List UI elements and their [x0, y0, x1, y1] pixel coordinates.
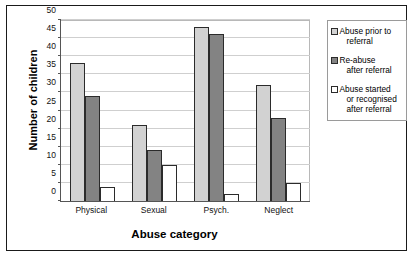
y-tick-label: 30	[47, 77, 56, 87]
bar[interactable]	[194, 27, 209, 201]
legend-entry[interactable]: Abuse startedor recognisedafter referral	[331, 84, 403, 114]
bars-layer	[61, 20, 310, 201]
y-tick-label: 20	[47, 114, 56, 124]
bar[interactable]	[100, 187, 115, 201]
plot-area: 05101520253035404550	[60, 20, 310, 202]
y-tick-label: 50	[47, 5, 56, 15]
bar[interactable]	[147, 150, 162, 201]
y-tick-label: 0	[51, 186, 56, 196]
legend-swatch-icon	[331, 86, 338, 93]
y-tick-label: 40	[47, 41, 56, 51]
x-axis-title: Abuse category	[37, 228, 312, 240]
y-tick-label: 5	[51, 168, 56, 178]
y-tick-label: 25	[47, 96, 56, 106]
x-tick-label: Neglect	[253, 205, 305, 215]
bar[interactable]	[256, 85, 271, 201]
chart-legend: Abuse prior toreferralRe-abuseafter refe…	[327, 20, 407, 121]
x-axis-tick-labels: PhysicalSexualPsych.Neglect	[60, 205, 310, 215]
legend-entry[interactable]: Re-abuseafter referral	[331, 55, 403, 75]
bar-group-psych	[194, 20, 239, 201]
bar-group-neglect	[256, 20, 301, 201]
bar[interactable]	[286, 183, 301, 201]
bar[interactable]	[132, 125, 147, 201]
bar[interactable]	[85, 96, 100, 201]
y-tick-label: 45	[47, 23, 56, 33]
y-tick-label: 10	[47, 150, 56, 160]
legend-label: Re-abuseafter referral	[340, 55, 392, 75]
bar[interactable]	[271, 118, 286, 201]
bar-group-physical	[70, 20, 115, 201]
y-axis-title: Number of children	[27, 30, 39, 170]
legend-swatch-icon	[331, 28, 338, 35]
bar[interactable]	[70, 63, 85, 201]
x-tick-label: Psych.	[190, 205, 242, 215]
legend-entry[interactable]: Abuse prior toreferral	[331, 26, 403, 46]
chart-figure-frame: Number of children 05101520253035404550 …	[6, 5, 407, 251]
y-tick-label: 15	[47, 132, 56, 142]
legend-label: Abuse startedor recognisedafter referral	[340, 84, 397, 114]
x-tick-label: Physical	[65, 205, 117, 215]
y-tick-label: 35	[47, 59, 56, 69]
bar[interactable]	[224, 194, 239, 201]
legend-label: Abuse prior toreferral	[340, 26, 392, 46]
bar[interactable]	[209, 34, 224, 201]
x-tick-label: Sexual	[128, 205, 180, 215]
bar-group-sexual	[132, 20, 177, 201]
legend-swatch-icon	[331, 57, 338, 64]
bar[interactable]	[162, 165, 177, 201]
